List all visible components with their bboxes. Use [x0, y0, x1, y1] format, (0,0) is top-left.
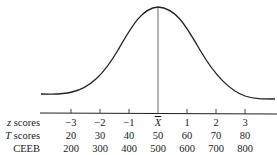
z-value: 2 [201, 117, 231, 129]
z-value: −3 [56, 117, 86, 129]
t-value: 80 [230, 130, 260, 142]
ceeb-value: 600 [172, 143, 202, 155]
t-scores-label: T scores [5, 130, 40, 142]
mean-symbol: X [143, 117, 173, 129]
z-value: 1 [172, 117, 202, 129]
z-value: −2 [85, 117, 115, 129]
ceeb-label: CEEB [13, 143, 40, 155]
ceeb-value: 400 [114, 143, 144, 155]
x-axis [40, 113, 277, 114]
ceeb-value: 800 [230, 143, 260, 155]
z-scores-label: z scores [7, 117, 40, 129]
t-value: 30 [85, 130, 115, 142]
z-value: −1 [114, 117, 144, 129]
z-suffix: scores [11, 117, 40, 128]
t-value: 60 [172, 130, 202, 142]
t-value: 70 [201, 130, 231, 142]
t-suffix: scores [11, 130, 40, 141]
t-value: 40 [114, 130, 144, 142]
z-value: 3 [230, 117, 260, 129]
ceeb-value: 700 [201, 143, 231, 155]
t-value: 20 [56, 130, 86, 142]
ceeb-value: 300 [85, 143, 115, 155]
ceeb-value: 200 [56, 143, 86, 155]
ceeb-value: 500 [143, 143, 173, 155]
t-value: 50 [143, 130, 173, 142]
